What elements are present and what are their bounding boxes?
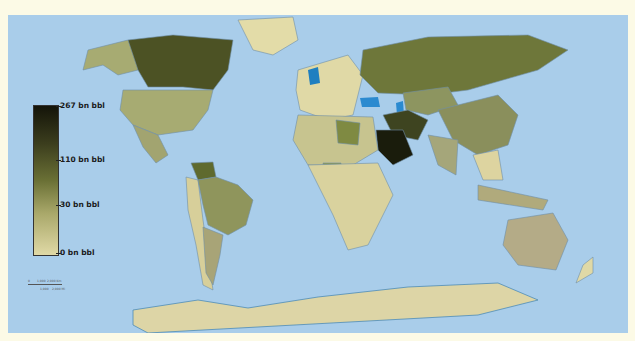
- australia-region: [503, 213, 568, 270]
- legend-label-high: 110 bn bbl: [60, 155, 105, 164]
- scale-mi-mid: 1,000: [40, 287, 49, 291]
- map-graphic: [8, 15, 628, 333]
- legend-label-mid: 30 bn bbl: [60, 200, 100, 209]
- europe-region: [296, 55, 363, 120]
- scale-km-start: 0: [28, 279, 30, 283]
- new-zealand-region: [576, 257, 593, 283]
- color-scale-bar: [33, 105, 59, 256]
- usa-region: [120, 90, 213, 135]
- black-sea: [360, 97, 380, 107]
- world-map: [8, 15, 628, 333]
- scale-line: [28, 284, 62, 285]
- greenland-region: [238, 17, 298, 55]
- uk-region: [308, 67, 320, 85]
- central-africa-region: [308, 163, 393, 250]
- scale-km-mid: 1,000: [37, 279, 46, 283]
- canada-region: [128, 35, 233, 90]
- russia-region: [360, 35, 568, 95]
- libya-region: [336, 120, 360, 145]
- venezuela-region: [191, 162, 216, 180]
- southeast-asia-region: [473, 150, 503, 180]
- legend-label-max: 267 bn bbl: [60, 101, 105, 110]
- antarctica-region: [133, 283, 538, 333]
- indonesia-region: [478, 185, 548, 210]
- india-region: [428, 135, 458, 175]
- north-africa-region: [293, 115, 378, 165]
- legend-label-min: 0 bn bbl: [60, 248, 94, 257]
- brazil-region: [198, 177, 253, 235]
- scale-km-end: 2,000 Km: [47, 279, 61, 283]
- scale-mi-end: 2,000 Mi: [52, 287, 65, 291]
